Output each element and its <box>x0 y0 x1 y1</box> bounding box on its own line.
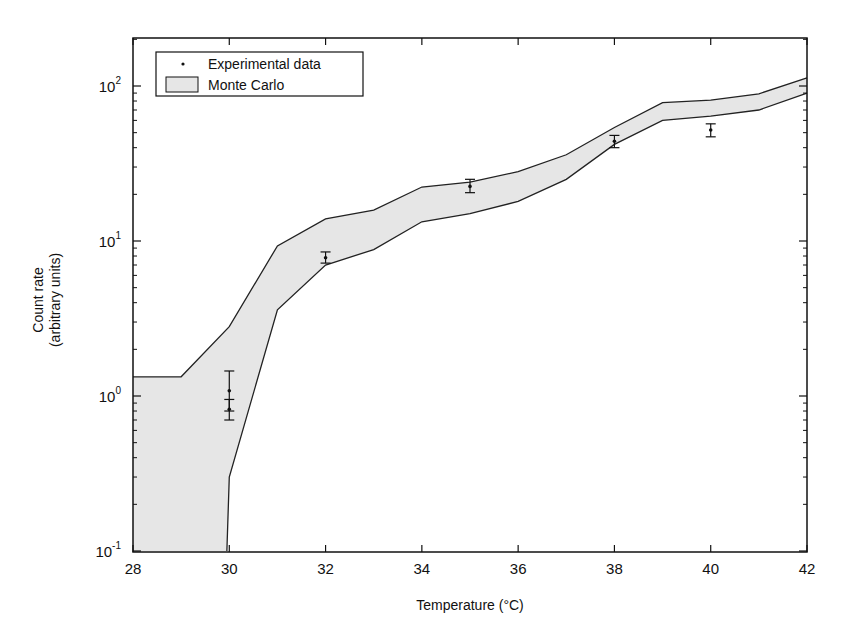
data-marker <box>709 128 713 132</box>
x-tick-label: 32 <box>317 560 334 577</box>
x-tick-label: 28 <box>125 560 142 577</box>
legend: Experimental dataMonte Carlo <box>156 52 363 96</box>
band-lower-edge <box>227 93 807 551</box>
data-marker <box>227 389 231 393</box>
y-axis-title: Count rate(arbitrary units) <box>30 253 63 347</box>
legend-label-experimental: Experimental data <box>208 56 321 72</box>
x-tick-label: 36 <box>510 560 527 577</box>
data-marker <box>227 408 231 412</box>
x-axis-title: Temperature (°C) <box>416 597 524 613</box>
data-marker <box>468 185 472 189</box>
data-point <box>706 124 716 137</box>
legend-dot-marker <box>181 62 184 65</box>
data-marker <box>324 256 328 260</box>
chart-canvas: 2830323436384042 10-1100101102 Temperatu… <box>0 0 843 638</box>
x-tick-label: 40 <box>702 560 719 577</box>
x-tick-label: 34 <box>414 560 431 577</box>
x-tick-label: 30 <box>221 560 238 577</box>
y-tick-label: 101 <box>99 230 122 250</box>
y-axis-title-line: Count rate <box>30 267 46 333</box>
monte-carlo-band <box>133 78 807 551</box>
data-marker <box>613 139 617 143</box>
x-tick-label: 42 <box>799 560 816 577</box>
y-tick-label: 102 <box>99 75 122 95</box>
y-tick-label: 100 <box>99 385 122 405</box>
legend-label-monte-carlo: Monte Carlo <box>208 77 284 93</box>
y-tick-label: 10-1 <box>95 540 121 560</box>
x-tick-label: 38 <box>606 560 623 577</box>
legend-shaded-marker <box>166 77 198 92</box>
y-axis-title-line: (arbitrary units) <box>47 253 63 347</box>
band-fill <box>133 78 807 551</box>
